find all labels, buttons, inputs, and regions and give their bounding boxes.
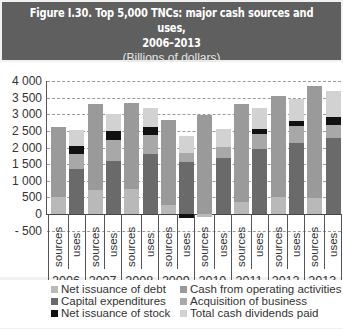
x-category-separator (251, 214, 252, 269)
bar-segment (252, 149, 267, 214)
y-tick-label: 3 000 (0, 108, 42, 120)
legend-swatch-icon (51, 286, 58, 293)
bar-segment (307, 198, 322, 214)
legend-swatch-icon (180, 310, 187, 317)
bar-segment (143, 135, 158, 154)
legend-swatch-icon (51, 298, 58, 305)
bar-segment (252, 129, 267, 135)
figure-title: Figure I.30. Top 5,000 TNCs: major cash … (26, 6, 318, 51)
y-tick-label: 2 500 (0, 125, 42, 137)
bar-segment (326, 117, 341, 125)
x-category-separator (104, 214, 105, 269)
x-category-label: sources (52, 217, 64, 267)
bar-segment (69, 146, 84, 154)
bar-segment (252, 134, 267, 149)
x-category-label: uses (327, 217, 339, 257)
bar-segment (88, 190, 103, 214)
bar-segment (179, 162, 194, 214)
bar-segment (216, 129, 231, 147)
y-tick-label: 2 000 (0, 142, 42, 154)
bar-segment (106, 114, 121, 131)
x-category-label: uses (217, 217, 229, 257)
bar-segment (106, 140, 121, 161)
x-category-label: uses (290, 217, 302, 257)
legend-swatch-icon (180, 286, 187, 293)
bar-segment (216, 158, 231, 214)
bar-segment (216, 147, 231, 158)
x-category-separator (68, 214, 69, 269)
bar-segment (179, 153, 194, 162)
x-category-label: uses (70, 217, 82, 257)
y-tick-label: 1 500 (0, 158, 42, 170)
bar-segment (143, 154, 158, 214)
legend-label: Net issuance of stock (61, 307, 170, 319)
bar-segment (326, 125, 341, 138)
bar-segment (124, 103, 139, 189)
x-category-separator (141, 214, 142, 269)
y-tick-label: 1 000 (0, 175, 42, 187)
legend-item: Acquisition of business (180, 295, 307, 307)
bar-segment (307, 86, 322, 199)
legend-item: Capital expenditures (51, 295, 166, 307)
legend-item: Cash from operating activities (180, 283, 341, 295)
bar-segment (106, 131, 121, 140)
y-tick-label: 3 500 (0, 92, 42, 104)
bar-segment (88, 104, 103, 190)
x-category-label: uses (253, 217, 265, 257)
x-category-label: sources (89, 217, 101, 267)
legend-label: Capital expenditures (61, 295, 166, 307)
bar-segment (69, 130, 84, 146)
bar-segment (197, 115, 212, 214)
bar-segment (271, 96, 286, 197)
x-category-label: sources (125, 217, 137, 267)
x-category-label: sources (235, 217, 247, 267)
bar-segment (179, 136, 194, 153)
bar-segment (289, 121, 304, 126)
bar-segment (143, 108, 158, 127)
title-line-1: Figure I.30. Top 5,000 TNCs: major cash … (26, 6, 318, 36)
x-category-label: uses (107, 217, 119, 257)
bar-segment (51, 197, 66, 214)
bar-segment (106, 161, 121, 214)
x-category-label: sources (198, 217, 210, 267)
legend-swatch-icon (51, 310, 58, 317)
bar-segment (234, 202, 249, 214)
legend-item: Total cash dividends paid (180, 307, 319, 319)
bar-segment (326, 138, 341, 214)
chart-legend: Net issuance of debtCash from operating … (0, 280, 343, 328)
bar-segment (161, 205, 176, 214)
legend-label: Net issuance of debt (61, 283, 166, 295)
bar-segment (252, 108, 267, 129)
x-category-label: uses (144, 217, 156, 257)
figure-frame: Figure I.30. Top 5,000 TNCs: major cash … (0, 0, 343, 329)
x-category-label: sources (272, 217, 284, 267)
title-line-2: 2006–2013 (26, 36, 318, 51)
y-tick-label: 4 000 (0, 75, 42, 87)
x-category-label: sources (162, 217, 174, 267)
x-category-label: uses (180, 217, 192, 257)
bar-segment (51, 127, 66, 197)
bar-segment (289, 99, 304, 121)
legend-label: Acquisition of business (190, 295, 307, 307)
y-tick-label: 500 (0, 191, 42, 203)
figure-header: Figure I.30. Top 5,000 TNCs: major cash … (2, 2, 341, 60)
bar-segment (289, 143, 304, 214)
y-tick-label: 0 (0, 208, 42, 220)
legend-item: Net issuance of debt (51, 283, 166, 295)
x-category-separator (324, 214, 325, 269)
x-category-separator (287, 214, 288, 269)
x-category-separator (214, 214, 215, 269)
bar-segment (234, 104, 249, 202)
x-category-separator (177, 214, 178, 269)
y-axis (46, 81, 47, 214)
legend-label: Cash from operating activities (190, 283, 341, 295)
bar-segment (69, 169, 84, 214)
bar-segment (289, 126, 304, 143)
bar-segment (69, 154, 84, 169)
y-tick-label: - 500 (0, 225, 42, 237)
bar-segment (124, 189, 139, 214)
bar-segment (143, 127, 158, 135)
bar-segment (161, 120, 176, 205)
x-category-label: sources (308, 217, 320, 267)
bar-segment (271, 197, 286, 214)
